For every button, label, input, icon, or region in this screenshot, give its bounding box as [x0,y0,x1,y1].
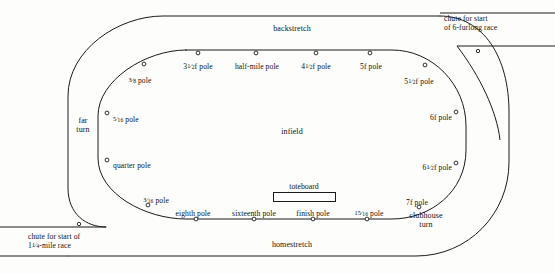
far-turn-line2: turn [76,125,89,134]
toteboard-box [273,192,336,202]
pole-label-text: half-mile pole [235,62,279,71]
pole-six-f-marker [454,110,458,114]
pole-five-f-marker [368,51,372,55]
pole-label-text: 5f pole [360,62,382,71]
chute-mile-and-quarter-start-marker [77,222,80,225]
pole-finish-label: finish pole [296,209,329,218]
fraction-denominator: 16 [148,198,154,204]
pole-label-text: f pole [313,62,331,71]
pole-three-eighths-label: 3⁄8 pole [129,76,152,86]
fraction-denominator: 2 [192,64,195,70]
pole-five-f-label: 5f pole [360,62,382,71]
pole-half-mile-label: half-mile pole [235,62,279,71]
pole-six-f-label: 6f pole [430,113,452,122]
pole-label-text: pole [368,209,383,218]
fraction-denominator: 2 [431,165,434,171]
fraction-denominator: 2 [413,79,416,85]
pole-quarter-label: quarter pole [113,161,151,170]
pole-five-and-half-f-marker [423,63,427,67]
fraction: 5⁄16 [113,114,123,124]
fraction-denominator: 4 [36,243,39,249]
chute-six-furlong-line1: chute for start [444,14,488,23]
pole-half-mile-marker [254,51,258,55]
fraction: 1⁄2 [187,61,194,71]
pole-three-eighths-marker [142,62,146,66]
pole-label-text: pole [136,76,151,85]
chute-six-furlong-line2: of 6-furlong race [444,23,497,32]
fraction-denominator: 2 [310,64,313,70]
pole-label-text: f pole [416,77,434,86]
fraction: 3⁄16 [143,195,153,205]
fraction: 15⁄16 [355,208,368,218]
racetrack-diagram: backstretch homestretch infield far turn… [0,0,555,274]
toteboard-label: toteboard [289,182,318,193]
fraction: 1⁄2 [305,61,312,71]
fraction: 3⁄8 [129,75,136,85]
pole-label-text: pole [153,196,168,205]
region-label-clubhouse-turn: clubhouse turn [399,211,453,230]
pole-three-sixteenths-label: 3⁄16 pole [143,196,169,206]
pole-four-and-half-f-marker [314,51,318,55]
pole-three-and-half-f-label: 31⁄2f pole [183,62,212,72]
pole-label-text: sixteenth pole [232,209,276,218]
pole-label-text: quarter pole [113,161,151,170]
fraction-denominator: 16 [362,211,368,217]
chute-quarter-mile-fraction: 1⁄4 [32,240,39,250]
chute-six-furlong-caption: chute for start of 6-furlong race [444,14,554,33]
pole-six-and-half-f-label: 61⁄2f pole [423,163,452,173]
pole-label-text: finish pole [296,209,329,218]
pole-fifteen-sixteenths-label: 15⁄16 pole [355,209,384,219]
region-label-homestretch: homestretch [272,240,312,249]
pole-five-and-half-f-label: 51⁄2f pole [404,77,433,87]
fraction-denominator: 8 [133,78,136,84]
region-label-far-turn: far turn [63,116,103,135]
chute-six-furlong-connector [457,46,500,140]
fraction-denominator: 16 [118,117,124,123]
pole-label-text: 6f pole [430,113,452,122]
pole-five-sixteenths-label: 5⁄16 pole [113,115,139,125]
fraction: 1⁄2 [426,162,433,172]
chute-quarter-mile-unit: -mile race [39,241,71,250]
region-label-infield: infield [281,127,303,136]
pole-label-text: f pole [434,163,452,172]
pole-label-text: pole [123,115,138,124]
pole-five-sixteenths-marker [105,111,109,115]
chute-six-furlong-start-marker [476,49,479,52]
pole-eighth-label: eighth pole [175,209,210,218]
pole-label-text: f pole [195,62,213,71]
pole-six-and-half-f-marker [454,161,458,165]
pole-label-text: eighth pole [175,209,210,218]
pole-four-and-half-f-label: 41⁄2f pole [301,62,330,72]
pole-quarter-marker [105,158,109,162]
pole-label-text: 7f pole [406,198,428,207]
chute-quarter-mile-line2: 11⁄4-mile race [28,241,71,250]
clubhouse-turn-line1: clubhouse [409,211,442,220]
clubhouse-turn-line2: turn [419,220,432,229]
far-turn-line1: far [78,116,87,125]
pole-three-and-half-f-marker [196,51,200,55]
fraction: 1⁄2 [408,76,415,86]
region-label-backstretch: backstretch [273,24,311,33]
pole-seven-f-label: 7f pole [406,198,428,207]
chute-quarter-mile-caption: chute for start of 11⁄4-mile race [28,232,158,252]
pole-sixteenth-label: sixteenth pole [232,209,276,218]
